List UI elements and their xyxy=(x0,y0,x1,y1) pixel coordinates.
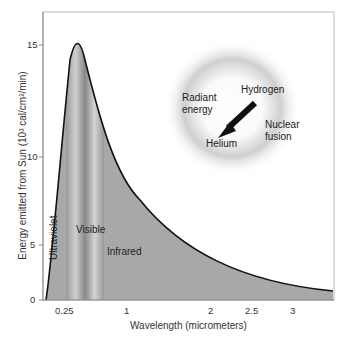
y-tick-15: 15 xyxy=(27,39,38,50)
x-tick-3: 3 xyxy=(290,305,295,316)
x-tick-1: 1 xyxy=(124,305,129,316)
x-tick-2.5: 2.5 xyxy=(245,305,258,316)
radiant-label: Radiant xyxy=(182,92,216,103)
ultraviolet-label: Ultraviolet xyxy=(48,216,59,260)
y-tick-0: 0 xyxy=(30,294,35,305)
y-tick-10: 10 xyxy=(27,151,38,162)
chart-canvas xyxy=(0,0,339,339)
visible-label: Visible xyxy=(76,224,105,235)
fusion-label: fusion xyxy=(265,131,292,142)
hydrogen-label: Hydrogen xyxy=(241,84,284,95)
helium-label: Helium xyxy=(206,138,237,149)
y-axis-label: Energy emitted from Sun (10³ cal/cm²/min… xyxy=(17,66,28,266)
x-axis-label: Wavelength (micrometers) xyxy=(130,320,247,331)
x-tick-2: 2 xyxy=(208,305,213,316)
y-ticks xyxy=(39,45,43,300)
infrared-label: Infrared xyxy=(107,246,141,257)
nuclear-label: Nuclear xyxy=(265,119,299,130)
y-tick-5: 5 xyxy=(30,239,35,250)
x-tick-0.25: 0.25 xyxy=(55,305,74,316)
energy-label: energy xyxy=(182,104,213,115)
